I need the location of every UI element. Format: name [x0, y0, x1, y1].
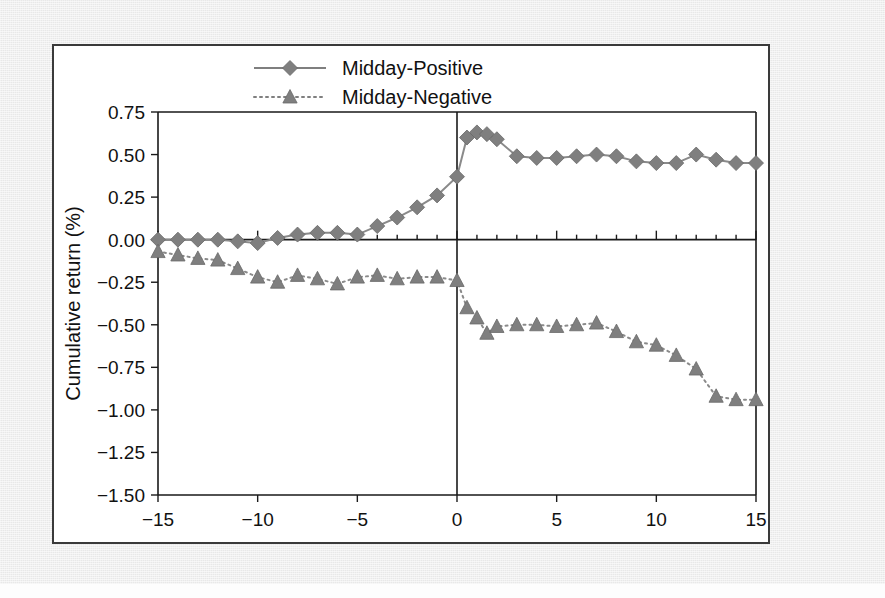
data-point-marker — [569, 149, 584, 164]
data-point-marker — [729, 156, 744, 171]
data-point-marker — [250, 236, 265, 251]
data-point-marker — [629, 334, 643, 348]
data-point-marker — [529, 150, 544, 165]
data-point-marker — [460, 300, 474, 314]
x-tick-label: 5 — [551, 509, 562, 530]
data-point-marker — [629, 154, 644, 169]
figure-root: Midday-PositiveMidday-Negative 0.750.500… — [0, 0, 885, 598]
data-point-marker — [290, 268, 304, 282]
x-tick-label: −10 — [242, 509, 274, 530]
data-point-marker — [689, 147, 704, 162]
data-point-marker — [190, 232, 205, 247]
x-tick-label: −15 — [142, 509, 174, 530]
chart-legend: Midday-PositiveMidday-Negative — [254, 57, 492, 108]
y-tick-label: −0.25 — [97, 272, 145, 293]
data-point-marker — [251, 270, 265, 284]
data-point-marker — [390, 210, 405, 225]
legend-label-1: Midday-Positive — [342, 57, 483, 79]
y-tick-label: 0.25 — [108, 187, 145, 208]
chart-ticks: 0.750.500.250.00−0.25−0.50−0.75−1.00−1.2… — [97, 102, 767, 530]
data-point-marker — [230, 234, 245, 249]
cumulative-return-chart: Midday-PositiveMidday-Negative 0.750.500… — [54, 46, 768, 542]
y-tick-label: −1.00 — [97, 400, 145, 421]
data-point-marker — [569, 317, 583, 331]
y-tick-label: −1.50 — [97, 485, 145, 506]
data-point-marker — [589, 316, 603, 330]
data-point-marker — [170, 232, 185, 247]
data-point-marker — [709, 152, 724, 167]
y-axis-title: Cumulative return (%) — [62, 206, 84, 401]
data-point-marker — [609, 324, 623, 338]
data-point-marker — [370, 219, 385, 234]
data-point-marker — [669, 348, 683, 362]
data-point-marker — [310, 271, 324, 285]
x-tick-label: 0 — [452, 509, 463, 530]
data-point-marker — [270, 230, 285, 245]
y-tick-label: 0.75 — [108, 102, 145, 123]
x-tick-label: 15 — [745, 509, 766, 530]
data-point-marker — [231, 261, 245, 275]
data-point-marker — [410, 200, 425, 215]
y-tick-label: −0.75 — [97, 357, 145, 378]
x-tick-label: 10 — [646, 509, 667, 530]
data-point-marker — [609, 149, 624, 164]
data-point-marker — [589, 147, 604, 162]
data-point-marker — [171, 247, 185, 261]
y-tick-label: −0.50 — [97, 315, 145, 336]
y-tick-label: 0.00 — [108, 230, 145, 251]
legend-label-2: Midday-Negative — [342, 86, 492, 108]
data-point-marker — [210, 232, 225, 247]
chart-card: Midday-PositiveMidday-Negative 0.750.500… — [52, 44, 770, 544]
data-point-marker — [510, 317, 524, 331]
y-tick-label: −1.25 — [97, 442, 145, 463]
legend-marker-1 — [283, 61, 298, 76]
data-point-marker — [749, 156, 764, 171]
y-tick-label: 0.50 — [108, 145, 145, 166]
data-point-marker — [330, 225, 345, 240]
data-point-marker — [310, 225, 325, 240]
x-tick-label: −5 — [346, 509, 368, 530]
data-point-marker — [669, 156, 684, 171]
data-point-marker — [370, 268, 384, 282]
data-point-marker — [151, 244, 165, 257]
data-point-marker — [689, 362, 703, 376]
data-point-marker — [549, 150, 564, 165]
data-point-marker — [649, 156, 664, 171]
